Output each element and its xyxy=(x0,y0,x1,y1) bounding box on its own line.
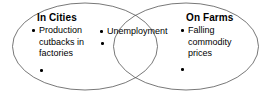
overlap-item-text: Unemployment xyxy=(107,26,174,38)
bullet-dot-icon xyxy=(32,29,35,32)
right-item-text: Falling commodity prices xyxy=(188,25,243,60)
right-circle-list: Falling commodity prices xyxy=(181,25,243,60)
venn-text-layer: In Cities On Farms Production cutbacks i… xyxy=(0,0,271,96)
bullet-dot-icon xyxy=(100,30,103,33)
bullet-dot-icon xyxy=(181,29,184,32)
left-circle-heading: In Cities xyxy=(37,12,77,23)
right-circle-heading: On Farms xyxy=(186,12,233,23)
overlap-empty-bullet-dot-icon xyxy=(101,42,104,45)
right-empty-bullet-dot-icon xyxy=(181,68,184,71)
venn-diagram: In Cities On Farms Production cutbacks i… xyxy=(0,0,271,96)
list-item: Falling commodity prices xyxy=(181,25,243,60)
left-item-text: Production cutbacks in factories xyxy=(39,25,92,60)
list-item: Unemployment xyxy=(100,26,174,38)
overlap-list: Unemployment xyxy=(100,26,174,38)
left-circle-list: Production cutbacks in factories xyxy=(32,25,92,60)
list-item: Production cutbacks in factories xyxy=(32,25,92,60)
left-empty-bullet-dot-icon xyxy=(40,69,43,72)
